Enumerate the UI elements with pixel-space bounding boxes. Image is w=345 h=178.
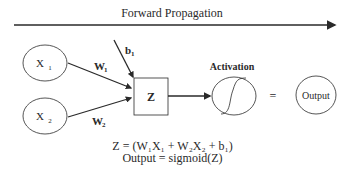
svg-text:2: 2 bbox=[48, 117, 52, 125]
activation-node bbox=[212, 77, 256, 115]
sigmoid-curve-icon bbox=[221, 78, 246, 114]
svg-text:1: 1 bbox=[131, 50, 135, 58]
svg-text:Z: Z bbox=[147, 90, 155, 104]
svg-text:Output: Output bbox=[302, 90, 330, 101]
output-node: Output bbox=[296, 76, 336, 114]
svg-text:2: 2 bbox=[102, 121, 106, 129]
svg-text:1: 1 bbox=[48, 64, 52, 72]
svg-text:X: X bbox=[36, 57, 44, 69]
sum-node-z: Z bbox=[134, 78, 168, 115]
svg-text:1: 1 bbox=[104, 66, 108, 74]
input-node-x2: X 2 bbox=[23, 98, 67, 134]
input-node-x1: X 1 bbox=[23, 45, 67, 81]
equation-output: Output = sigmoid(Z) bbox=[0, 152, 345, 165]
bias-label: b 1 bbox=[125, 44, 135, 58]
svg-text:X: X bbox=[36, 110, 44, 122]
diagram-title: Forward Propagation bbox=[121, 6, 223, 20]
weight-label-w1: W 1 bbox=[94, 60, 108, 74]
equals-sign: = bbox=[270, 89, 277, 103]
activation-label: Activation bbox=[210, 61, 255, 72]
weight-label-w2: W 2 bbox=[92, 115, 106, 129]
